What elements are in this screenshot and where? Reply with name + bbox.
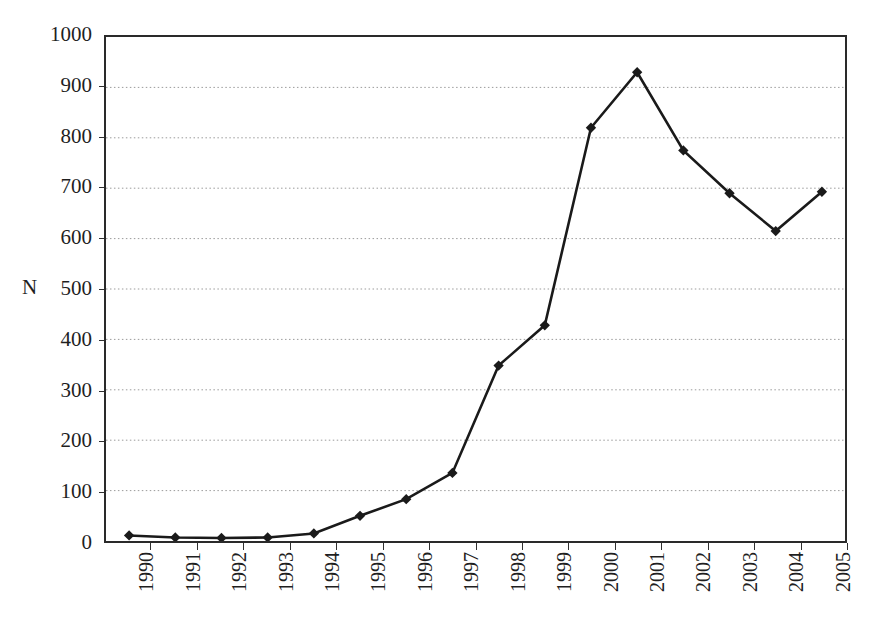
y-axis-tick-label: 0 — [30, 532, 92, 553]
y-axis-tick-label: 600 — [30, 227, 92, 248]
x-axis-tick-mark — [150, 543, 151, 550]
data-point-marker — [447, 468, 457, 478]
x-axis-tick-label: 2004 — [786, 552, 806, 635]
y-axis-tick-label: 1000 — [30, 24, 92, 45]
x-axis-tick-mark — [568, 543, 569, 550]
gridlines — [106, 87, 845, 490]
x-axis-tick-label: 1992 — [229, 552, 249, 635]
y-axis-tick-label: 300 — [30, 380, 92, 401]
x-axis-tick-mark — [429, 543, 430, 550]
x-axis-tick-mark — [522, 543, 523, 550]
x-axis-tick-mark — [197, 543, 198, 550]
y-axis-tick-label: 900 — [30, 75, 92, 96]
x-axis-tick-mark — [847, 543, 848, 550]
x-axis-tick-label: 2001 — [647, 552, 667, 635]
x-axis-tick-mark — [336, 543, 337, 550]
data-point-marker — [355, 511, 365, 521]
x-axis-tick-mark — [615, 543, 616, 550]
x-axis-tick-label: 2003 — [740, 552, 760, 635]
x-axis-tick-label: 1990 — [136, 552, 156, 635]
y-axis-tick-label: 800 — [30, 126, 92, 147]
x-axis-tick-mark — [801, 543, 802, 550]
x-axis-tick-label: 1995 — [368, 552, 388, 635]
x-axis-tick-mark — [476, 543, 477, 550]
plot-svg — [106, 37, 845, 541]
x-axis-tick-mark — [661, 543, 662, 550]
x-axis-tick-label: 1999 — [554, 552, 574, 635]
data-point-marker — [170, 532, 180, 541]
y-axis-tick-label: 100 — [30, 481, 92, 502]
y-axis-tick-label: 200 — [30, 430, 92, 451]
x-axis-tick-label: 1997 — [461, 552, 481, 635]
x-axis-tick-mark — [708, 543, 709, 550]
x-axis-tick-label: 2000 — [601, 552, 621, 635]
x-axis-tick-label: 1994 — [322, 552, 342, 635]
data-point-marker — [262, 532, 272, 541]
data-point-marker — [309, 528, 319, 538]
data-point-marker — [124, 530, 134, 540]
line-chart: N 01002003004005006007008009001000 19901… — [0, 0, 879, 635]
data-point-marker — [401, 494, 411, 504]
y-axis-tick-label: 400 — [30, 329, 92, 350]
data-point-marker — [216, 533, 226, 541]
x-axis-tick-mark — [383, 543, 384, 550]
data-series-line — [129, 72, 822, 538]
x-axis-tick-label: 1993 — [276, 552, 296, 635]
y-axis-tick-labels: 01002003004005006007008009001000 — [30, 0, 92, 635]
plot-area — [104, 35, 847, 543]
x-axis-tick-mark — [243, 543, 244, 550]
x-axis-tick-mark — [290, 543, 291, 550]
x-axis-tick-label: 1991 — [183, 552, 203, 635]
y-axis-tick-label: 700 — [30, 176, 92, 197]
x-axis-tick-label: 1998 — [508, 552, 528, 635]
x-axis-tick-label: 2002 — [693, 552, 713, 635]
x-axis-tick-label: 1996 — [415, 552, 435, 635]
y-axis-tick-label: 500 — [30, 278, 92, 299]
x-axis-tick-label: 2005 — [833, 552, 853, 635]
x-axis-tick-mark — [754, 543, 755, 550]
